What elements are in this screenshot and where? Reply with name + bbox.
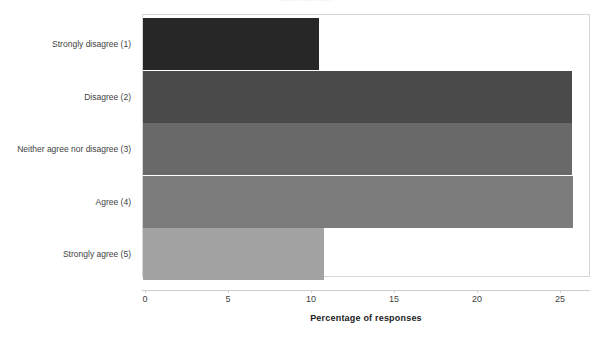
x-axis-line bbox=[142, 290, 590, 291]
bar bbox=[143, 18, 319, 70]
y-axis-category-label: Strongly disagree (1) bbox=[0, 39, 131, 49]
x-axis-tick-label: 25 bbox=[540, 294, 580, 304]
x-axis-tick-label: 15 bbox=[374, 294, 414, 304]
y-axis-category-labels: Strongly disagree (1)Disagree (2)Neither… bbox=[0, 14, 137, 277]
x-axis-tick-label: 20 bbox=[457, 294, 497, 304]
x-axis-tick-label: 0 bbox=[125, 294, 165, 304]
bar-chart: Satisfaction Strongly disagree (1)Disagr… bbox=[0, 0, 612, 337]
x-axis-tick-mark bbox=[394, 290, 395, 293]
bar bbox=[143, 123, 572, 175]
x-axis-tick-mark bbox=[477, 290, 478, 293]
bar bbox=[143, 228, 324, 280]
bars-layer bbox=[142, 14, 590, 277]
x-axis-tick-label: 5 bbox=[208, 294, 248, 304]
x-axis-title: Percentage of responses bbox=[142, 313, 590, 323]
x-axis-tick-mark bbox=[145, 290, 146, 293]
x-axis-tick-mark bbox=[228, 290, 229, 293]
bar bbox=[143, 71, 572, 123]
x-axis-tick-mark bbox=[560, 290, 561, 293]
bar bbox=[143, 176, 573, 228]
y-axis-category-label: Strongly agree (5) bbox=[0, 249, 131, 259]
y-axis-category-label: Neither agree nor disagree (3) bbox=[0, 144, 131, 154]
x-axis-tick-label: 10 bbox=[291, 294, 331, 304]
y-axis-category-label: Disagree (2) bbox=[0, 92, 131, 102]
y-axis-category-label: Agree (4) bbox=[0, 197, 131, 207]
chart-title: Satisfaction bbox=[0, 0, 612, 1]
x-axis-tick-mark bbox=[311, 290, 312, 293]
